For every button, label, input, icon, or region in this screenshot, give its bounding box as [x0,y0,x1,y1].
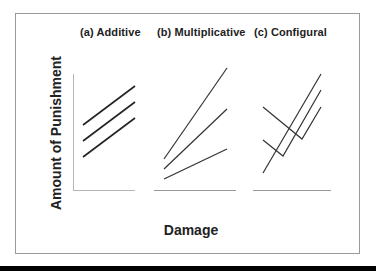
series-line [83,102,135,141]
plot-area [0,0,376,271]
panel-additive [73,74,135,191]
series-line [83,118,135,157]
series-line [164,68,227,159]
series-line [263,74,321,173]
series-line [164,149,227,179]
series-line [164,109,227,169]
panel-configural [253,74,331,191]
series-line [83,86,135,125]
panel-multiplicative [154,68,236,191]
bottom-black-bar [0,266,376,271]
